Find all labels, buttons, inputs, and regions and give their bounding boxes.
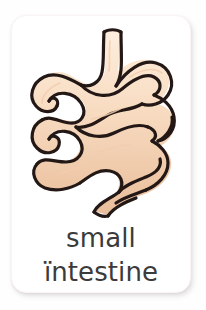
small-intestine-illustration — [26, 25, 178, 220]
caption-line-1: small — [12, 221, 190, 255]
flashcard[interactable]: small ïntestine — [11, 15, 191, 293]
caption-line-2: ïntestine — [12, 255, 190, 289]
flashcard-page: small ïntestine — [0, 0, 206, 310]
card-caption: small ïntestine — [12, 221, 190, 289]
